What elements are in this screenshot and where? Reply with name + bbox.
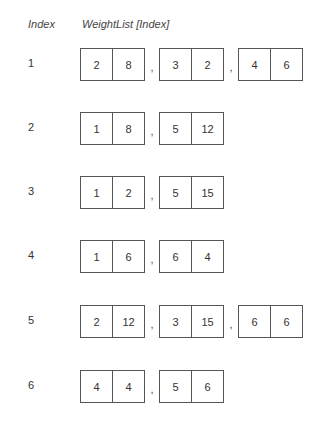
pair-weight-cell: 4 [112,371,144,402]
list-row: 5212,315,66 [0,305,316,338]
pair-weight-cell: 6 [270,306,302,337]
header-weightlist: WeightList [Index] [82,18,169,30]
row-index: 2 [28,121,34,133]
pair-node-cell: 6 [160,241,191,272]
weight-pair-box: 32 [159,48,224,81]
weight-pair-box: 64 [159,240,224,273]
pair-weight-cell: 6 [270,49,302,80]
list-row: 218,512 [0,112,316,145]
comma-separator: , [224,57,238,73]
pair-weight-cell: 8 [112,49,144,80]
header-index: Index [28,18,55,30]
weight-pair-box: 212 [80,305,145,338]
comma-separator: , [145,379,159,395]
pair-node-cell: 5 [160,371,191,402]
weight-pair-box: 46 [238,48,303,81]
pair-node-cell: 5 [160,177,191,208]
pair-node-cell: 1 [81,241,112,272]
weight-pair-box: 44 [80,370,145,403]
pair-node-cell: 5 [160,113,191,144]
row-index: 4 [28,249,34,261]
row-index: 3 [28,185,34,197]
comma-separator: , [145,185,159,201]
pair-weight-cell: 2 [112,177,144,208]
pair-weight-cell: 12 [191,113,223,144]
pair-node-cell: 2 [81,49,112,80]
weight-pair-box: 18 [80,112,145,145]
weight-pairs: 18,512 [80,112,224,145]
comma-separator: , [145,314,159,330]
pair-weight-cell: 2 [191,49,223,80]
weight-pairs: 12,515 [80,176,224,209]
pair-node-cell: 3 [160,306,191,337]
pair-node-cell: 4 [239,49,270,80]
weight-pair-box: 12 [80,176,145,209]
pair-node-cell: 1 [81,177,112,208]
comma-separator: , [224,314,238,330]
pair-weight-cell: 15 [191,306,223,337]
pair-node-cell: 3 [160,49,191,80]
row-index: 1 [28,57,34,69]
pair-node-cell: 1 [81,113,112,144]
weight-pair-box: 16 [80,240,145,273]
row-index: 5 [28,314,34,326]
list-row: 128,32,46 [0,48,316,81]
weight-pair-box: 28 [80,48,145,81]
pair-node-cell: 6 [239,306,270,337]
weight-pair-box: 56 [159,370,224,403]
row-index: 6 [28,379,34,391]
list-row: 644,56 [0,370,316,403]
weight-pair-box: 66 [238,305,303,338]
comma-separator: , [145,57,159,73]
pair-weight-cell: 6 [191,371,223,402]
comma-separator: , [145,121,159,137]
weight-pair-box: 315 [159,305,224,338]
pair-weight-cell: 15 [191,177,223,208]
weight-pairs: 212,315,66 [80,305,303,338]
comma-separator: , [145,249,159,265]
weight-pair-box: 512 [159,112,224,145]
pair-node-cell: 4 [81,371,112,402]
pair-weight-cell: 8 [112,113,144,144]
pair-weight-cell: 4 [191,241,223,272]
pair-node-cell: 2 [81,306,112,337]
weight-pairs: 16,64 [80,240,224,273]
weight-pairs: 28,32,46 [80,48,303,81]
weight-pairs: 44,56 [80,370,224,403]
weight-pair-box: 515 [159,176,224,209]
pair-weight-cell: 12 [112,306,144,337]
list-row: 416,64 [0,240,316,273]
pair-weight-cell: 6 [112,241,144,272]
list-row: 312,515 [0,176,316,209]
